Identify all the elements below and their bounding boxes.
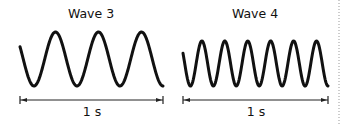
duration-arrow-wave-3 (20, 96, 163, 104)
wave-3-title: Wave 3 (41, 6, 141, 21)
wave-4-title: Wave 4 (205, 6, 305, 21)
wave-3-duration-label: 1 s (62, 104, 122, 119)
wave-3-curve (20, 32, 163, 86)
wave-4-curve (183, 41, 328, 86)
wave-4-duration-label: 1 s (226, 104, 286, 119)
duration-arrow-wave-4 (183, 96, 328, 104)
